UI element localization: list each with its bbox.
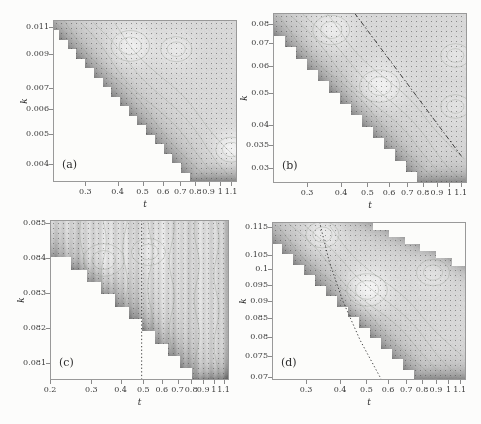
y-tick-label-a: 0.009 [15,50,49,58]
x-tick-mark [191,380,192,384]
y-tick-mark [269,24,273,25]
y-tick-label-c: 0.082 [12,324,46,332]
y-tick-mark [268,285,272,286]
x-tick-mark [163,182,164,186]
y-tick-mark [268,255,272,256]
y-tick-mark [46,363,50,364]
x-tick-mark [180,182,181,186]
x-tick-label-b: 0.3 [295,189,319,197]
x-tick-mark [203,380,204,384]
heatmap-canvas-d [272,222,466,380]
x-tick-label-d: 0.3 [294,386,318,394]
x-tick-mark [178,380,179,384]
y-tick-label-d: 0.08 [234,333,268,341]
x-tick-mark [407,183,408,187]
y-tick-label-d: 0.075 [234,352,268,360]
heatmap-canvas-a [53,20,237,182]
x-tick-mark [162,380,163,384]
y-tick-mark [268,227,272,228]
x-tick-mark [307,183,308,187]
x-tick-mark [449,183,450,187]
x-tick-mark [143,182,144,186]
y-tick-mark [269,125,273,126]
y-tick-label-d: 0.105 [234,251,268,259]
x-tick-mark [118,182,119,186]
x-tick-label-a: 0.4 [106,188,130,196]
y-tick-mark [49,109,53,110]
y-tick-mark [269,145,273,146]
x-tick-mark [50,380,51,384]
x-tick-mark [406,380,407,384]
y-tick-label-c: 0.085 [12,219,46,227]
panel-corner-label-c: (c) [59,356,74,369]
x-tick-mark [306,380,307,384]
heatmap-canvas-b [273,13,467,183]
y-tick-mark [49,88,53,89]
y-axis-label-d: k [238,295,252,307]
y-tick-mark [46,223,50,224]
x-tick-label-d: 1.1 [448,386,472,394]
y-tick-mark [46,258,50,259]
heatmap-canvas-c [50,220,229,380]
y-tick-mark [49,27,53,28]
y-tick-label-d: 0.07 [234,373,268,381]
x-tick-mark [209,182,210,186]
x-axis-label-c: t [134,397,146,407]
y-tick-mark [269,93,273,94]
x-tick-label-b: 0.5 [355,189,379,197]
x-tick-mark [91,380,92,384]
y-tick-mark [49,54,53,55]
y-tick-mark [49,164,53,165]
x-tick-label-c: 0.2 [38,386,62,394]
y-axis-label-a: k [19,95,33,107]
y-tick-label-a: 0.005 [15,130,49,138]
y-tick-mark [269,66,273,67]
y-tick-label-b: 0.07 [235,39,269,47]
x-tick-label-c: 0.4 [109,386,133,394]
y-tick-label-a: 0.007 [15,84,49,92]
y-tick-mark [49,134,53,135]
x-tick-mark [436,380,437,384]
y-tick-label-b: 0.06 [235,62,269,70]
y-tick-mark [268,356,272,357]
x-tick-label-a: 1.1 [219,188,243,196]
x-tick-mark [461,183,462,187]
y-tick-label-c: 0.081 [12,359,46,367]
x-tick-mark [437,183,438,187]
y-tick-mark [269,43,273,44]
y-tick-label-b: 0.03 [235,164,269,172]
x-tick-mark [423,183,424,187]
y-axis-label-b: k [239,92,253,104]
x-tick-mark [460,380,461,384]
x-tick-mark [224,380,225,384]
y-tick-label-d: 0.1 [234,265,268,273]
x-tick-mark [195,182,196,186]
y-tick-label-a: 0.011 [15,23,49,31]
y-tick-mark [269,168,273,169]
x-tick-label-b: 0.4 [329,189,353,197]
y-tick-label-b: 0.035 [235,141,269,149]
x-tick-label-d: 0.4 [328,386,352,394]
x-tick-mark [366,380,367,384]
x-tick-mark [85,182,86,186]
panel-corner-label-d: (d) [281,356,297,369]
x-tick-mark [367,183,368,187]
y-tick-mark [46,328,50,329]
x-tick-mark [231,182,232,186]
x-tick-mark [220,182,221,186]
x-tick-label-c: 1.1 [212,386,236,394]
y-axis-label-c: k [16,294,30,306]
x-tick-mark [121,380,122,384]
x-tick-mark [388,380,389,384]
y-tick-label-a: 0.004 [15,160,49,168]
y-tick-mark [268,377,272,378]
y-tick-mark [268,269,272,270]
x-tick-mark [214,380,215,384]
y-tick-label-d: 0.095 [234,281,268,289]
x-tick-mark [143,380,144,384]
figure-2x2-contour-plots: 0.0110.0090.0070.0060.0050.0040.30.40.50… [0,0,481,424]
y-tick-label-c: 0.084 [12,254,46,262]
x-tick-label-a: 0.3 [73,188,97,196]
x-tick-label-d: 0.5 [354,386,378,394]
x-axis-label-d: t [363,397,375,407]
